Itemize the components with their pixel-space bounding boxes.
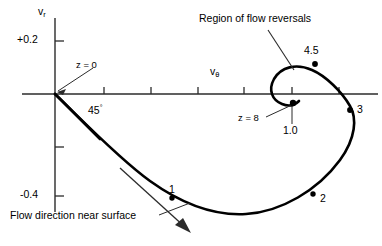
point-marker-2 bbox=[310, 191, 315, 196]
point-label-45: 4.5 bbox=[304, 45, 319, 56]
data-point-markers bbox=[169, 61, 353, 201]
z-eight-leader bbox=[266, 104, 294, 117]
z-eight-label: z = 8 bbox=[238, 113, 259, 123]
y-tick-label-negative: -0.4 bbox=[20, 189, 38, 200]
forty-five-degree-label: 45° bbox=[88, 104, 103, 116]
point-label-2: 2 bbox=[320, 193, 326, 204]
point-label-3: 3 bbox=[357, 104, 363, 115]
flow-direction-label: Flow direction near surface bbox=[10, 210, 136, 221]
flow-direction-leader bbox=[159, 203, 190, 215]
hodograph-curve bbox=[55, 67, 354, 215]
z-zero-leader bbox=[58, 68, 93, 91]
y-tick-label-positive: +0.2 bbox=[17, 34, 38, 45]
x-axis-label: vθ bbox=[210, 66, 219, 79]
figure-hodograph: vr +0.2 -0.4 vθ z = 0 45° Region of flow… bbox=[0, 0, 382, 246]
point-marker-1 bbox=[169, 195, 174, 200]
point-label-1: 1 bbox=[169, 184, 175, 195]
point-marker-3 bbox=[347, 107, 353, 113]
z-zero-label: z = 0 bbox=[76, 60, 97, 70]
x-axis-ticks bbox=[104, 87, 339, 94]
y-axis-label: vr bbox=[38, 6, 46, 19]
point-marker-45 bbox=[312, 61, 318, 67]
point-marker-z8 bbox=[290, 100, 296, 106]
region-leader bbox=[268, 30, 294, 70]
one-point-zero-label: 1.0 bbox=[283, 125, 298, 136]
region-of-flow-reversals-label: Region of flow reversals bbox=[199, 13, 311, 24]
forty-five-degree-ray bbox=[55, 94, 100, 139]
y-axis-ticks bbox=[55, 41, 64, 196]
